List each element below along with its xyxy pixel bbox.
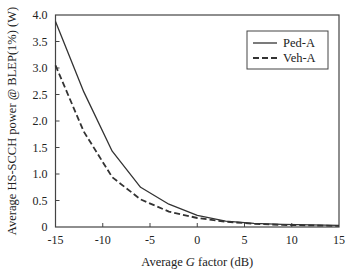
series-line-veh-a <box>56 65 340 226</box>
legend: Ped-AVeh-A <box>247 31 328 69</box>
x-tick-label: -5 <box>145 233 155 247</box>
x-axis-label-part: G <box>186 255 195 269</box>
x-tick-label: -15 <box>48 233 64 247</box>
x-tick-label: 5 <box>242 233 248 247</box>
line-chart: -15-10-505101500.51.01.52.02.53.03.54.0 … <box>0 0 355 276</box>
x-tick-label: -10 <box>95 233 111 247</box>
x-axis-label: Average G factor (dB) <box>141 255 253 269</box>
y-tick-label: 2.5 <box>33 88 48 102</box>
y-tick-label: 0.5 <box>33 194 48 208</box>
y-tick-label: 4.0 <box>33 8 48 22</box>
y-tick-label: 3.5 <box>33 35 48 49</box>
y-axis-label: Average HS-SCCH power @ BLEP(1%) (W) <box>5 7 19 235</box>
x-tick-label: 10 <box>286 233 298 247</box>
y-tick-label: 0 <box>42 220 48 234</box>
y-tick-label: 3.0 <box>33 61 48 75</box>
x-tick-label: 0 <box>194 233 200 247</box>
x-tick-label: 15 <box>333 233 345 247</box>
y-tick-label: 2.0 <box>33 114 48 128</box>
x-axis-label-part: factor (dB) <box>195 255 253 269</box>
legend-label-ped-a: Ped-A <box>283 36 315 50</box>
y-tick-label: 1.0 <box>33 167 48 181</box>
x-axis-label-part: Average <box>141 255 186 269</box>
legend-label-veh-a: Veh-A <box>283 51 316 65</box>
y-tick-label: 1.5 <box>33 141 48 155</box>
